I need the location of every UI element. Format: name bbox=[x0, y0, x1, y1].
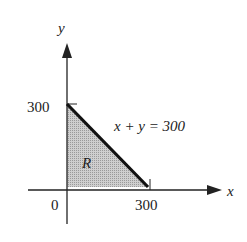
feasible-region-diagram: y x 300 300 0 R x + y = 300 bbox=[0, 0, 247, 242]
origin-label: 0 bbox=[51, 197, 59, 213]
y-axis-arrow-icon bbox=[62, 43, 72, 58]
line-equation-label: x + y = 300 bbox=[113, 118, 186, 134]
x-axis-arrow-icon bbox=[207, 185, 222, 195]
x-tick-label: 300 bbox=[135, 197, 158, 213]
y-tick-label: 300 bbox=[27, 99, 50, 115]
region-label: R bbox=[81, 155, 91, 171]
x-axis-label: x bbox=[226, 183, 234, 199]
y-axis-label: y bbox=[56, 20, 65, 36]
